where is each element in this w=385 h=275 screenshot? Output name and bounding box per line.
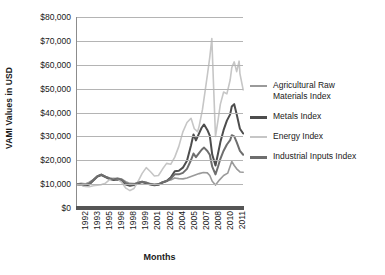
x-tick-label: 2008	[213, 211, 223, 230]
gridline	[77, 136, 243, 137]
x-tick-label: 2002	[165, 211, 175, 230]
legend-item[interactable]: Energy Index	[250, 131, 385, 142]
gridline	[77, 89, 243, 90]
legend-color-swatch	[250, 116, 267, 119]
legend-label: Agricultural Raw Materials Index	[273, 80, 335, 102]
y-tick-label: $30,000	[40, 131, 71, 141]
x-tick-label: 1995	[104, 211, 114, 230]
x-axis-title: Months	[76, 252, 243, 262]
gridline	[77, 65, 243, 66]
y-tick-label: $60,000	[40, 60, 71, 70]
x-tick-label: 1996	[116, 211, 126, 230]
legend-color-swatch	[250, 156, 267, 159]
x-tick-label: 1998	[128, 211, 138, 230]
x-axis-tick-labels: 1992199319951996199819992001200220042005…	[76, 211, 243, 251]
plot-area	[76, 17, 243, 208]
legend-color-swatch	[250, 85, 267, 87]
legend-label: Industrial Inputs Index	[273, 151, 356, 162]
x-tick-label: 2010	[225, 211, 235, 230]
x-tick-label: 1993	[92, 211, 102, 230]
gridline	[77, 160, 243, 161]
y-tick-label: $20,000	[40, 155, 71, 165]
legend-item[interactable]: Metals Index	[250, 111, 385, 122]
gridline	[77, 41, 243, 42]
legend-item[interactable]: Agricultural Raw Materials Index	[250, 80, 385, 102]
x-tick-label: 1999	[140, 211, 150, 230]
x-tick-label: 1992	[80, 211, 90, 230]
y-tick-label: $40,000	[40, 108, 71, 118]
y-tick-label: $10,000	[40, 179, 71, 189]
gridline	[77, 113, 243, 114]
y-tick-label: $0	[62, 203, 71, 213]
legend-item[interactable]: Industrial Inputs Index	[250, 151, 385, 162]
gridline	[77, 184, 243, 185]
chart-legend: Agricultural Raw Materials IndexMetals I…	[250, 80, 385, 171]
legend-label: Metals Index	[273, 111, 321, 122]
y-tick-label: $70,000	[40, 36, 71, 46]
y-axis-tick-labels: $0$10,000$20,000$30,000$40,000$50,000$60…	[16, 17, 74, 208]
x-axis-baseline	[76, 206, 244, 210]
y-tick-label: $80,000	[40, 12, 71, 22]
y-tick-label: $50,000	[40, 84, 71, 94]
x-tick-label: 2005	[189, 211, 199, 230]
gridline	[77, 17, 243, 18]
x-tick-label: 2011	[237, 211, 247, 229]
legend-color-swatch	[250, 136, 267, 138]
x-tick-label: 2001	[152, 211, 162, 230]
y-axis-title-text: VAMI Values in USD	[4, 67, 14, 149]
x-tick-label: 2004	[177, 211, 187, 230]
x-tick-label: 2007	[201, 211, 211, 230]
chart-figure: VAMI Values in USD $0$10,000$20,000$30,0…	[0, 0, 385, 275]
legend-label: Energy Index	[273, 131, 323, 142]
